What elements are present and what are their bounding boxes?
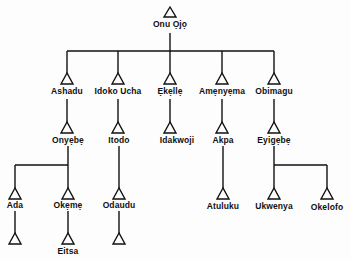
- label-ameneyema: Amẹnyẹma: [199, 86, 245, 96]
- label-idoko-ucha: Idoko Ucha: [95, 86, 142, 96]
- triangle-icon: [112, 122, 124, 133]
- label-obimagu: Obimagu: [255, 86, 293, 96]
- triangle-icon: [268, 188, 280, 199]
- triangle-icon: [113, 233, 125, 244]
- label-okelofo: Okelofo: [311, 202, 343, 212]
- triangle-icon: [164, 7, 176, 17]
- label-eitsa: Eitsa: [58, 246, 79, 256]
- triangle-icon: [61, 122, 73, 133]
- label-akpa: Akpa: [212, 135, 233, 145]
- label-atuluku: Atuluku: [207, 201, 239, 211]
- triangle-icon: [164, 122, 176, 133]
- triangle-icon: [9, 233, 21, 244]
- label-ashadu: Ashadu: [51, 86, 83, 96]
- triangle-icon: [164, 73, 176, 84]
- triangle-icon: [217, 188, 229, 199]
- label-eyigebe: Eyigẹbẹ: [257, 135, 290, 145]
- triangle-icon: [62, 233, 74, 244]
- node-onu-ojo: [164, 7, 176, 17]
- triangle-icon: [216, 73, 228, 84]
- triangle-icon: [61, 73, 73, 84]
- label-onyebe: Onyẹbẹ: [52, 135, 84, 145]
- label-okeme: Okẹmẹ: [54, 200, 83, 210]
- triangle-icon: [9, 188, 21, 199]
- label-idakwoji: Idakwoji: [160, 135, 194, 145]
- label-itodo: Itodo: [108, 135, 129, 145]
- label-onu-ojo: Onu Ọjọ: [153, 19, 187, 29]
- triangle-icon: [112, 73, 124, 84]
- label-odaudu: Odaudu: [103, 200, 136, 210]
- genealogy-tree: [0, 0, 350, 259]
- triangle-icon: [62, 188, 74, 199]
- label-ekelle: Ẹkẹllẹ: [157, 86, 182, 96]
- triangle-icon: [268, 122, 280, 133]
- triangle-icon: [216, 122, 228, 133]
- triangle-icon: [268, 73, 280, 84]
- label-ada: Ada: [7, 200, 23, 210]
- triangle-icon: [321, 188, 333, 199]
- triangle-icon: [113, 188, 125, 199]
- label-ukwenya: Ukwenya: [255, 201, 293, 211]
